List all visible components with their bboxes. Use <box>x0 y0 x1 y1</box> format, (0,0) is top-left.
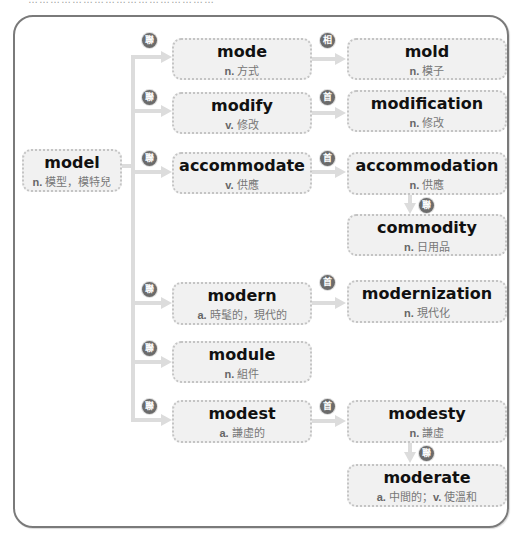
node-module: module n.組件 <box>172 341 312 383</box>
node-pos: n. <box>225 368 235 380</box>
node-pos: n. <box>410 179 420 191</box>
node-pos: n. <box>404 241 414 253</box>
node-modernization: modernization n.現代化 <box>347 280 507 323</box>
badge-icon: 聯 <box>142 341 157 356</box>
connector-mode <box>131 55 163 59</box>
arrow-icon <box>335 53 346 65</box>
node-modify: modify v.修改 <box>172 92 312 134</box>
arrow-down-icon <box>404 203 416 214</box>
node-modest: modest a.謙虛的 <box>172 400 312 443</box>
node-mode: mode n.方式 <box>172 38 312 80</box>
badge-icon: 聯 <box>419 446 434 461</box>
node-pos: n. <box>404 307 414 319</box>
connector-modern-modernization <box>312 301 337 305</box>
node-meaning: 方式 <box>237 65 259 77</box>
arrow-icon <box>335 415 346 427</box>
arrow-icon <box>335 107 346 119</box>
node-meaning: 模子 <box>422 65 444 77</box>
node-meaning: 中間的； <box>389 491 433 503</box>
node-pos: n. <box>225 65 235 77</box>
node-meaning: 供應 <box>237 179 259 191</box>
arrow-icon <box>335 297 346 309</box>
arrow-icon <box>161 356 172 368</box>
arrow-icon <box>161 414 172 426</box>
badge-icon: 首 <box>320 399 335 414</box>
node-word: modesty <box>349 405 505 423</box>
node-word: commodity <box>349 219 505 237</box>
node-meaning: 組件 <box>237 368 259 380</box>
node-word: mode <box>174 43 310 61</box>
node-modesty: modesty n.謙虛 <box>347 400 507 443</box>
badge-icon: 聯 <box>142 90 157 105</box>
connector-mode-mold <box>312 57 337 61</box>
node-word: modification <box>349 95 505 113</box>
node-meaning: 現代化 <box>417 307 450 319</box>
node-meaning: 模型，模特兒 <box>45 176 111 188</box>
node-pos: n. <box>410 65 420 77</box>
node-meaning-2: 使溫和 <box>444 491 477 503</box>
badge-icon: 相 <box>320 33 335 48</box>
node-word: modest <box>174 405 310 423</box>
node-word: modify <box>174 97 310 115</box>
node-word: modernization <box>349 285 505 303</box>
arrow-icon <box>161 297 172 309</box>
node-pos: a. <box>197 309 206 321</box>
node-word: accommodate <box>174 157 310 175</box>
badge-icon: 聯 <box>142 151 157 166</box>
connector-accommodate <box>131 170 163 174</box>
node-modern: modern a.時髦的，現代的 <box>172 282 312 325</box>
node-modification: modification n.修改 <box>347 90 507 132</box>
badge-icon: 聯 <box>142 282 157 297</box>
node-meaning: 修改 <box>422 117 444 129</box>
node-word: modern <box>174 287 310 305</box>
badge-icon: 首 <box>320 151 335 166</box>
connector-module <box>131 360 163 364</box>
node-meaning: 日用品 <box>417 241 450 253</box>
arrow-icon <box>161 166 172 178</box>
node-pos: n. <box>410 427 420 439</box>
node-accommodate: accommodate v.供應 <box>172 152 312 194</box>
node-mold: mold n.模子 <box>347 38 507 80</box>
badge-icon: 聯 <box>142 399 157 414</box>
node-meaning: 謙虛 <box>422 427 444 439</box>
badge-icon: 首 <box>320 275 335 290</box>
node-meaning: 供應 <box>422 179 444 191</box>
connector-accommodate-accommodation <box>312 170 337 174</box>
arrow-icon <box>335 166 346 178</box>
node-pos-2: v. <box>433 491 441 503</box>
connector-modify-modification <box>312 111 337 115</box>
arrow-down-icon <box>404 452 416 463</box>
badge-icon: 聯 <box>142 33 157 48</box>
node-accommodation: accommodation n.供應 <box>347 152 507 195</box>
connector-modest <box>131 418 163 422</box>
node-pos: v. <box>225 119 233 131</box>
connector-modern <box>131 301 163 305</box>
node-word: module <box>174 346 310 364</box>
node-word: model <box>24 154 120 172</box>
node-pos: a. <box>219 427 228 439</box>
badge-icon: 首 <box>320 90 335 105</box>
node-word: mold <box>349 43 505 61</box>
node-pos: n. <box>410 117 420 129</box>
node-pos: a. <box>377 491 386 503</box>
node-meaning: 謙虛的 <box>232 427 265 439</box>
node-pos: v. <box>225 179 233 191</box>
node-word: moderate <box>349 469 505 487</box>
arrow-icon <box>161 51 172 63</box>
arrow-icon <box>161 105 172 117</box>
connector-modest-modesty <box>312 419 337 423</box>
node-model: model n.模型，模特兒 <box>22 149 122 192</box>
clipped-caption: …………………………………………… <box>28 0 288 6</box>
node-pos: n. <box>33 176 43 188</box>
connector-modify <box>131 109 163 113</box>
node-word: accommodation <box>349 157 505 175</box>
node-commodity: commodity n.日用品 <box>347 214 507 256</box>
badge-icon: 聯 <box>419 198 434 213</box>
node-meaning: 修改 <box>237 119 259 131</box>
node-moderate: moderate a.中間的；v.使溫和 <box>347 464 507 507</box>
node-meaning: 時髦的，現代的 <box>210 309 287 321</box>
